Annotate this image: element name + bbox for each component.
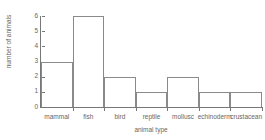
bar — [199, 92, 231, 107]
y-tick-label: 4 — [34, 42, 38, 50]
x-tick-label: echinoderm — [198, 113, 232, 120]
x-tick-mark — [136, 107, 137, 111]
y-tick-label: 0 — [34, 103, 38, 111]
bar — [73, 16, 105, 107]
bar — [104, 77, 136, 107]
y-tick-mark — [42, 31, 45, 32]
x-tick-mark — [230, 107, 231, 111]
x-axis-title: animal type — [40, 126, 262, 133]
y-tick: 5 — [23, 31, 45, 32]
y-tick-label: 6 — [34, 12, 38, 20]
y-tick-mark — [42, 46, 45, 47]
y-tick-label: 2 — [34, 72, 38, 80]
x-tick-mark — [199, 107, 200, 111]
x-tick-label: mammal — [44, 113, 69, 120]
y-tick: 6 — [23, 16, 45, 17]
x-tick-mark — [262, 107, 263, 111]
y-tick-label: 1 — [34, 87, 38, 95]
x-tick-label: mollusc — [172, 113, 194, 120]
x-tick-label: fish — [83, 113, 93, 120]
bar — [41, 62, 73, 108]
bar — [136, 92, 168, 107]
y-tick: 4 — [23, 46, 45, 47]
plot-area: 0123456 mammalfishbirdreptilemolluscechi… — [40, 16, 262, 108]
x-tick-label: reptile — [143, 113, 161, 120]
x-tick-label: crustacean — [230, 113, 262, 120]
y-tick: 0 — [23, 107, 45, 108]
y-tick-label: 5 — [34, 27, 38, 35]
y-tick-mark — [42, 16, 45, 17]
x-tick-mark — [167, 107, 168, 111]
bar — [167, 77, 199, 107]
x-tick-mark — [73, 107, 74, 111]
x-tick-label: bird — [115, 113, 126, 120]
x-tick-mark — [104, 107, 105, 111]
y-tick-label: 3 — [34, 57, 38, 65]
y-tick-mark — [42, 107, 45, 108]
bar — [230, 92, 262, 107]
bar-chart-figure: number of animals 0123456 mammalfishbird… — [0, 0, 265, 140]
y-axis-title: number of animals — [5, 4, 12, 80]
